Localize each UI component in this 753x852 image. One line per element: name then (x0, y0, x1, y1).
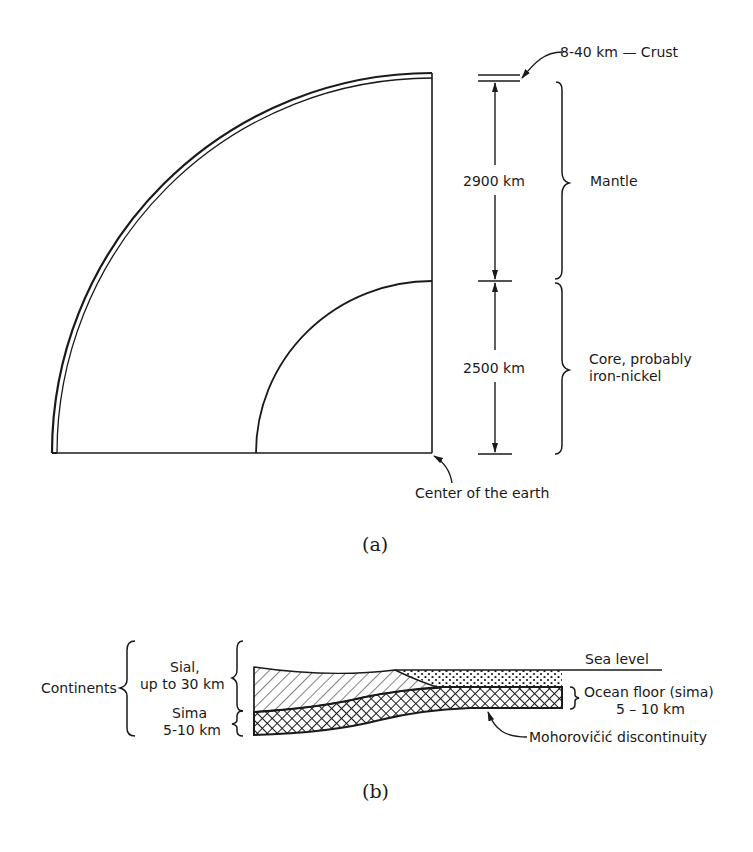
crust-inner-arc (57, 78, 432, 453)
moho-label: Mohorovičić discontinuity (529, 729, 707, 745)
sial-brace (232, 641, 243, 711)
core-brace (555, 283, 569, 454)
ocean-floor-label-line1: Ocean floor (sima) (584, 684, 714, 700)
caption-b: (b) (362, 780, 389, 802)
dimension-lines (478, 75, 520, 454)
core-arc (256, 281, 432, 453)
mantle-thickness-label: 2900 km (463, 173, 525, 189)
crust-label: 8-40 km — Crust (560, 44, 679, 60)
ocean-floor-label-line2: 5 – 10 km (616, 701, 685, 717)
sial-label-line2: up to 30 km (140, 676, 225, 692)
continents-label: Continents (41, 680, 117, 696)
sima-label-line1: Sima (172, 705, 207, 721)
mantle-label: Mantle (590, 173, 638, 189)
caption-a: (a) (362, 533, 388, 555)
sial-label-line1: Sial, (170, 659, 200, 675)
core-label-line2: iron-nickel (589, 368, 661, 384)
crust-leader-arrow (522, 52, 562, 78)
moho-leader-arrow (488, 712, 527, 737)
earth-structure-figure: 8-40 km — Crust 2900 km Mantle 2500 km C… (0, 0, 753, 852)
sima-brace (232, 711, 243, 736)
center-leader-arrow (434, 456, 452, 483)
sima-label-line2: 5-10 km (163, 722, 221, 738)
continents-brace (120, 641, 135, 736)
mantle-brace (555, 82, 569, 279)
ocean-floor-brace (570, 687, 579, 709)
center-label: Center of the earth (415, 485, 549, 501)
figure-a-earth-quadrant (52, 73, 432, 453)
core-thickness-label: 2500 km (463, 360, 525, 376)
figure-b-crust-section (254, 667, 662, 735)
sea-level-label: Sea level (585, 651, 649, 667)
core-label-line1: Core, probably (589, 351, 692, 367)
